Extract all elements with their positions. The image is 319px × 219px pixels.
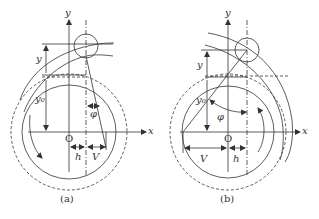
phi-label: φ [217,111,224,122]
panel-b [170,20,300,190]
h-label: h [75,151,81,162]
caption-b: (b) [220,193,234,204]
phi-label: φ [90,108,97,119]
y0-label: y₀ [34,93,45,104]
origin-label: O [65,133,73,144]
displacement-label: y [35,53,42,64]
y-axis-label: y [224,7,231,18]
rotation-arrow [30,115,42,158]
panel-b-labels: y x O y y₀ φ V h (b) [195,7,308,204]
cam-profile-inner [205,45,283,160]
follower-slant [183,50,247,132]
follower-slant [86,56,106,148]
origin-label: O [224,133,232,144]
h-label: h [233,153,239,164]
x-axis-label: x [302,125,308,136]
caption-a: (a) [60,193,74,204]
y-axis-label: y [64,7,71,18]
x-axis-label: x [148,125,154,136]
panel-a [11,20,146,190]
v-label: V [200,153,209,164]
cam-profile-outer [208,33,293,162]
v-label: V [92,151,101,162]
cam-mechanism-figure: y x O y y₀ φ h V (a) y [0,0,319,219]
cam-profile-outer [20,43,114,100]
displacement-label: y [196,59,203,70]
rotation-arrow [258,108,264,152]
y0-label: y₀ [195,94,206,105]
